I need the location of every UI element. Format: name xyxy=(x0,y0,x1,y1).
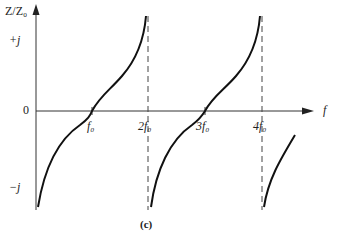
y-tick-plus-j: +j xyxy=(9,33,20,48)
y-axis-label: Z/Z₀ xyxy=(5,4,27,19)
x-tick-3f0: 3f₀ xyxy=(196,119,210,134)
reactance-curve-3 xyxy=(264,135,295,207)
x-tick-2f0: 2f₀ xyxy=(138,119,152,134)
x-axis-label: f xyxy=(323,103,326,118)
impedance-plot xyxy=(0,0,339,234)
x-tick-4f0: 4f₀ xyxy=(253,119,267,134)
y-tick-zero: 0 xyxy=(23,103,29,118)
y-axis-arrow-icon xyxy=(33,4,40,15)
figure-caption: (c) xyxy=(140,218,152,230)
x-tick-f0: f₀ xyxy=(87,119,95,134)
x-axis-arrow-icon xyxy=(302,108,314,115)
y-tick-minus-j: −j xyxy=(9,180,20,195)
